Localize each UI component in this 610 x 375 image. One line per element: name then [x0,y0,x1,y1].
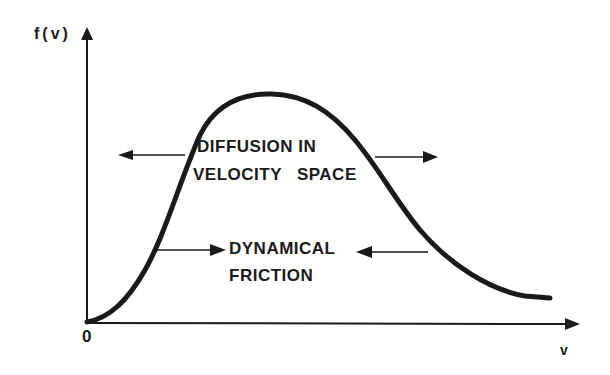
y-axis-label: f(v) [34,26,71,42]
friction-label-line1: DYNAMICAL [229,240,336,257]
diffusion-arrowhead-left [118,150,133,160]
velocity-distribution-diagram: f(v) 0 v DIFFUSION IN VELOCITY SPACE DYN… [0,0,610,375]
origin-label: 0 [82,328,91,345]
diffusion-label-line2: VELOCITY SPACE [193,166,357,183]
diagram-canvas [0,0,610,375]
x-axis-arrowhead [565,318,580,330]
friction-arrowhead-left [210,244,226,256]
y-axis-arrowhead [81,27,93,40]
friction-label-line2: FRICTION [229,267,313,284]
x-axis-label: v [560,343,568,357]
distribution-curve [87,94,550,322]
diffusion-arrowhead-right [423,151,438,163]
friction-arrowhead-right [356,246,372,258]
x-axis [86,323,565,324]
diffusion-label-line1: DIFFUSION IN [197,138,316,155]
